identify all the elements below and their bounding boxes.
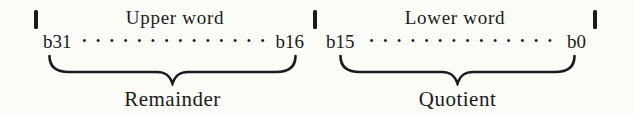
register-word-diagram: Upper word Lower word b31 • • • • • • • …: [0, 0, 634, 116]
upper-word-bit-range: b31 • • • • • • • • • • • • • • b16: [43, 31, 304, 53]
remainder-underbrace: [47, 54, 298, 86]
boundary-tick-b31: [34, 10, 38, 29]
quotient-label: Quotient: [338, 87, 577, 112]
upper-word-label: Upper word: [40, 7, 310, 29]
bit-label-b31: b31: [43, 31, 72, 53]
bit-label-b16: b16: [275, 31, 304, 53]
boundary-tick-b16-b15: [313, 10, 317, 29]
quotient-underbrace: [338, 54, 577, 86]
boundary-tick-b0: [593, 10, 597, 29]
bit-label-b0: b0: [567, 31, 586, 53]
lower-word-bit-range: b15 • • • • • • • • • • • • • • b0: [326, 31, 586, 53]
lower-word-label: Lower word: [320, 7, 590, 29]
remainder-label: Remainder: [47, 87, 298, 112]
bit-ellipsis-lower: • • • • • • • • • • • • • •: [370, 34, 552, 51]
bit-ellipsis-upper: • • • • • • • • • • • • • •: [82, 34, 264, 51]
bit-label-b15: b15: [326, 31, 355, 53]
